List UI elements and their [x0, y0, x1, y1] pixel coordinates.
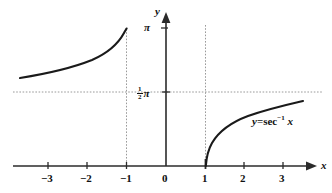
curve-left-branch	[20, 29, 127, 79]
half-fraction: 1 2	[137, 86, 143, 101]
half-pi-symbol: π	[144, 87, 150, 99]
y-tick-label-half-pi: 1 2 π	[137, 86, 150, 101]
x-axis-arrowhead	[306, 162, 317, 171]
y-tick-label-pi: π	[144, 22, 150, 33]
y-axis-arrowhead	[162, 12, 171, 23]
x-tick-label-neg-1: −1	[120, 173, 132, 184]
curve-equation-label: y=sec−1 x	[252, 116, 293, 127]
y-axis-label: y	[155, 6, 160, 17]
x-axis-label: x	[321, 160, 327, 171]
x-tick-label-pos-1: 1	[202, 173, 208, 184]
x-tick-label-pos-2: 2	[240, 173, 246, 184]
sec-inverse-graph-figure: y x π 1 2 π −3 −2 −1 0 1 2 3 y=sec−1 x	[0, 0, 332, 193]
equation-argument: x	[287, 115, 293, 127]
plot-canvas	[0, 0, 332, 193]
equation-exponent: −1	[277, 114, 285, 122]
fraction-numerator: 1	[137, 86, 143, 93]
equation-function: sec	[263, 115, 277, 127]
x-tick-label-neg-3: −3	[41, 173, 53, 184]
fraction-denominator: 2	[137, 93, 143, 101]
x-tick-label-neg-2: −2	[80, 173, 92, 184]
x-tick-label-pos-3: 3	[279, 173, 285, 184]
curve-right-branch	[206, 101, 303, 166]
x-tick-label-zero: 0	[162, 173, 168, 184]
